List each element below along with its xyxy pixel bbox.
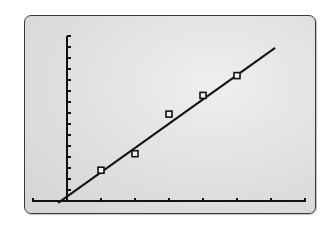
data-point-marker [98,167,104,173]
data-point-marker [166,111,172,117]
regression-line [58,48,275,203]
data-point-marker [234,73,240,79]
regression-line-path [58,48,275,203]
data-point-marker [132,151,138,157]
data-point-marker [200,92,206,98]
y-axis [67,36,71,202]
x-axis [33,198,306,202]
scatter-plot-with-regression-line [0,0,330,228]
